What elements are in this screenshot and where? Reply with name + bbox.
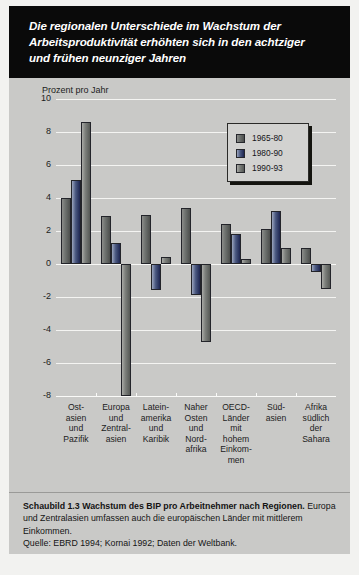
y-tick-label: 0 bbox=[29, 258, 51, 268]
bar bbox=[61, 198, 71, 264]
y-tick-label: 2 bbox=[29, 225, 51, 235]
legend-box: 1965-801980-901990-93 bbox=[227, 123, 309, 182]
bar bbox=[141, 215, 151, 265]
legend-label: 1980-90 bbox=[252, 148, 283, 158]
x-category-label: Europa und Zentral- asien bbox=[94, 402, 138, 444]
x-tick-mark bbox=[96, 393, 97, 397]
x-category-label: OECD- Länder mit hohem Einkom- men bbox=[214, 402, 258, 466]
header-banner: Die regionalen Unterschiede im Wachstum … bbox=[9, 6, 350, 78]
bar bbox=[71, 180, 81, 264]
bar bbox=[161, 257, 171, 264]
x-tick-mark bbox=[256, 393, 257, 397]
y-tick-label: 8 bbox=[29, 126, 51, 136]
y-axis: 1086420-2-4-6-8 bbox=[25, 99, 51, 396]
bar bbox=[311, 264, 321, 272]
bar bbox=[81, 122, 91, 264]
legend-item[interactable]: 1990-93 bbox=[236, 162, 283, 174]
x-tick-mark bbox=[216, 393, 217, 397]
bar-group bbox=[101, 99, 131, 396]
bar bbox=[221, 224, 231, 264]
x-category-label: Latein- amerika und Karibik bbox=[134, 402, 178, 444]
y-tick-label: -4 bbox=[29, 324, 51, 334]
legend-item[interactable]: 1965-80 bbox=[236, 132, 283, 144]
legend-label: 1965-80 bbox=[252, 133, 283, 143]
x-tick-mark bbox=[296, 393, 297, 397]
page-title: Die regionalen Unterschiede im Wachstum … bbox=[29, 18, 332, 66]
y-tick-label: 6 bbox=[29, 159, 51, 169]
legend-swatch-1980-90 bbox=[236, 149, 245, 158]
bar bbox=[281, 248, 291, 265]
chart-panel: Prozent pro Jahr 1086420-2-4-6-8 Ost- as… bbox=[9, 78, 350, 492]
y-tick-label: 4 bbox=[29, 192, 51, 202]
x-axis-category-labels: Ost- asien und PazifikEuropa und Zentral… bbox=[56, 402, 340, 488]
legend-item[interactable]: 1980-90 bbox=[236, 147, 283, 159]
y-tick-label: 10 bbox=[29, 93, 51, 103]
figure-root: Die regionalen Unterschiede im Wachstum … bbox=[0, 0, 359, 575]
bar bbox=[181, 208, 191, 264]
bar bbox=[231, 234, 241, 264]
y-tick-label: -8 bbox=[29, 390, 51, 400]
bar-group bbox=[61, 99, 91, 396]
caption-divider bbox=[9, 492, 350, 493]
legend-label: 1990-93 bbox=[252, 163, 283, 173]
bar bbox=[151, 264, 161, 290]
x-category-label: Afrika südlich der Sahara bbox=[294, 402, 338, 444]
bar bbox=[121, 264, 131, 396]
x-category-label: Naher Osten und Nord- afrika bbox=[174, 402, 218, 455]
caption-block: Schaubild 1.3 Wachstum des BIP pro Arbei… bbox=[9, 492, 350, 554]
bar bbox=[301, 248, 311, 265]
bar bbox=[101, 216, 111, 264]
x-category-label: Süd- asien bbox=[254, 402, 298, 423]
bar bbox=[241, 259, 251, 264]
bar-group bbox=[181, 99, 211, 396]
caption-main: Schaubild 1.3 Wachstum des BIP pro Arbei… bbox=[23, 500, 336, 537]
bar bbox=[261, 229, 271, 264]
legend-swatch-1990-93 bbox=[236, 164, 245, 173]
x-tick-mark bbox=[136, 393, 137, 397]
caption-bold-lead: Schaubild 1.3 Wachstum des BIP pro Arbei… bbox=[23, 501, 305, 511]
x-axis-line bbox=[56, 396, 336, 397]
caption-source: Quelle: EBRD 1994; Kornai 1992; Daten de… bbox=[23, 537, 336, 549]
bar bbox=[191, 264, 201, 295]
bar bbox=[111, 243, 121, 264]
y-tick-label: -2 bbox=[29, 291, 51, 301]
bar bbox=[271, 211, 281, 264]
y-axis-unit-label: Prozent pro Jahr bbox=[42, 85, 109, 95]
bar-group bbox=[141, 99, 171, 396]
x-category-label: Ost- asien und Pazifik bbox=[54, 402, 98, 444]
legend: 1965-801980-901990-93 bbox=[227, 123, 309, 182]
bar bbox=[201, 264, 211, 342]
bar bbox=[321, 264, 331, 289]
y-tick-label: -6 bbox=[29, 357, 51, 367]
legend-swatch-1965-80 bbox=[236, 134, 245, 143]
x-tick-mark bbox=[176, 393, 177, 397]
